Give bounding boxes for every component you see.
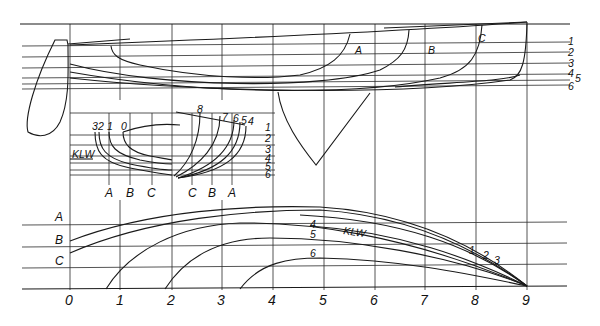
buttock-label-b: B: [428, 44, 435, 56]
body-buttock-label-a-left: A: [104, 186, 113, 200]
profile-view: A B C 1 2 3 4 5 6: [20, 22, 581, 165]
buttock-label-c: C: [478, 32, 486, 44]
profile-waterline-label-4: 4: [568, 67, 574, 79]
buttock-label-a: A: [354, 44, 362, 56]
station-label-4: 4: [268, 292, 276, 308]
body-section-label-8: 8: [197, 103, 203, 115]
half-breadth-label-c: C: [55, 254, 64, 268]
station-label-8: 8: [471, 292, 479, 308]
station-label-0: 0: [65, 292, 73, 308]
body-waterline-label-6: 6: [265, 168, 271, 180]
body-section-label-5: 5: [241, 114, 247, 126]
profile-waterline-label-5: 5: [575, 72, 581, 84]
half-breadth-curve-label-6: 6: [310, 247, 316, 259]
diagonal-label-1: 1: [469, 244, 475, 256]
body-buttock-label-b-right: B: [208, 186, 216, 200]
half-breadth-view: A B C 4 5 6 KLW 1 2 3: [22, 207, 567, 289]
body-buttock-label-a-right: A: [227, 186, 236, 200]
station-label-3: 3: [217, 292, 225, 308]
body-section-label-4: 4: [248, 115, 254, 127]
half-breadth-curve-label-5: 5: [310, 228, 316, 240]
body-buttock-label-c-right: C: [188, 186, 197, 200]
body-buttock-label-c-left: C: [147, 186, 156, 200]
station-label-1: 1: [116, 292, 124, 308]
body-section-label-1: 1: [107, 120, 113, 132]
half-breadth-label-b: B: [55, 233, 63, 247]
station-label-9: 9: [522, 292, 530, 308]
body-plan-klw-label: KLW: [72, 148, 95, 160]
body-section-label-6: 6: [233, 112, 239, 124]
station-label-5: 5: [319, 292, 327, 308]
station-label-2: 2: [166, 292, 175, 308]
half-breadth-klw-label: KLW: [343, 224, 368, 239]
ship-lines-plan: A B C 1 2 3 4 5 6: [0, 0, 600, 326]
diagonal-label-2: 2: [482, 249, 489, 261]
profile-waterline-label-6: 6: [568, 80, 574, 92]
half-breadth-label-a: A: [54, 210, 63, 224]
station-labels: 0 1 2 3 4 5 6 7 8 9: [65, 292, 530, 308]
body-section-label-0: 0: [121, 120, 127, 132]
diagonal-label-3: 3: [494, 254, 500, 266]
body-plan: KLW 3 2 1 0 8 7 6 5 4 1 2 3 4 5 6 A B C …: [70, 103, 275, 200]
body-buttock-label-b-left: B: [126, 186, 134, 200]
station-label-6: 6: [370, 292, 378, 308]
station-label-7: 7: [420, 292, 429, 308]
body-section-label-2: 2: [97, 120, 104, 132]
